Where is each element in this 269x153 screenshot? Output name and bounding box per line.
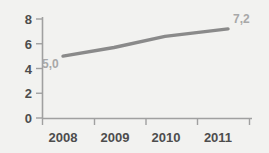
y-axis-label-4: 4 <box>12 62 32 77</box>
x-axis-ticks <box>43 119 250 126</box>
y-axis-label-0: 0 <box>12 111 32 126</box>
data-label-last: 7,2 <box>233 12 250 26</box>
data-series-line <box>63 29 228 56</box>
y-axis-label-6: 6 <box>12 37 32 52</box>
x-axis-label-2011: 2011 <box>195 130 241 145</box>
line-chart: 8 6 4 2 0 2008 2009 2010 2011 5,0 7,2 <box>0 0 269 153</box>
y-axis-label-2: 2 <box>12 86 32 101</box>
x-axis-label-2008: 2008 <box>40 130 86 145</box>
x-axis-label-2009: 2009 <box>92 130 138 145</box>
data-label-first: 5,0 <box>42 57 59 71</box>
x-axis-label-2010: 2010 <box>143 130 189 145</box>
y-axis-label-8: 8 <box>12 12 32 27</box>
